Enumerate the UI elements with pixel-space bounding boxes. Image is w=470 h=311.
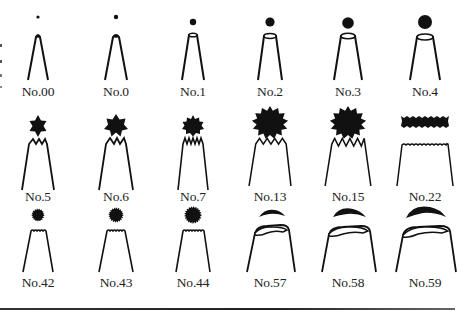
round-tip-icon: [309, 8, 387, 88]
round-tip-icon: [154, 8, 232, 88]
tip-label: No.58: [309, 275, 387, 291]
tip-label: No.42: [0, 275, 77, 291]
round-tip-icon: [77, 8, 155, 88]
fine-star-tip-icon: [77, 200, 155, 280]
star-tip-icon: [0, 112, 77, 192]
tip-label: No.3: [309, 84, 387, 100]
piping-tip-chart: No.00 No.0 No.1 No.2 No.3 No.4 No.5 No.6…: [0, 0, 470, 311]
round-tip-icon: [386, 8, 464, 88]
star-tip-icon: [231, 106, 309, 186]
bottom-divider: [0, 308, 455, 310]
tip-label: No.1: [154, 84, 232, 100]
tip-label: No.44: [154, 275, 232, 291]
petal-tip-icon: [386, 200, 464, 280]
fine-star-tip-icon: [0, 200, 77, 280]
star-tip-icon: [77, 112, 155, 192]
tip-label: No.4: [386, 84, 464, 100]
round-tip-icon: [0, 8, 77, 88]
round-tip-icon: [231, 8, 309, 88]
tip-label: No.00: [0, 84, 77, 100]
tip-label: No.57: [231, 275, 309, 291]
ribbon-tip-icon: [386, 110, 464, 190]
tip-label: No.2: [231, 84, 309, 100]
star-tip-icon: [154, 112, 232, 192]
tip-label: No.0: [77, 84, 155, 100]
fine-star-tip-icon: [154, 200, 232, 280]
tip-label: No.59: [386, 275, 464, 291]
left-edge-marks: [0, 42, 4, 92]
star-tip-icon: [309, 106, 387, 186]
petal-tip-icon: [309, 200, 387, 280]
tip-label: No.43: [77, 275, 155, 291]
petal-tip-icon: [231, 200, 309, 280]
